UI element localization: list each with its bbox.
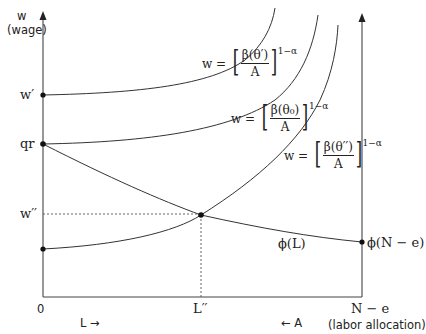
origin-label: 0 [37,304,44,316]
left-axis-arrow-icon [40,11,47,20]
formula-theta-zero: w = [ β(θ₀)A ] 1−α [231,103,328,134]
phi-end-label: ϕ(N − e) [367,236,424,249]
tick-l-double-prime: L′′ [193,302,208,315]
phi-curve-label: ϕ(L) [278,237,306,250]
qr-point [40,141,46,147]
x-axis-end-label: N − e [351,302,389,315]
tick-qr: qr [20,137,35,150]
formula-theta-prime: w = [ β(θ′)A ] 1−α [202,48,297,79]
formula-theta-double-prime: w = [ β(θ′′)A ] 1−α [284,140,382,171]
tick-w-prime: w′ [20,88,34,101]
left-direction-label: L → [80,318,100,330]
y-axis-label: (wage) [7,25,47,37]
tick-w-double-prime: w′′ [20,207,37,220]
right-direction-label: ← A [281,318,302,330]
y-axis-symbol: w [17,11,26,23]
x-axis-caption: (labor allocation) [328,320,426,332]
right-axis-arrow-icon [359,13,366,22]
w-prime-point [40,92,45,97]
equilibrium-point [198,212,204,218]
lower-intercept-point [40,246,45,251]
phi-end-point [359,239,364,244]
